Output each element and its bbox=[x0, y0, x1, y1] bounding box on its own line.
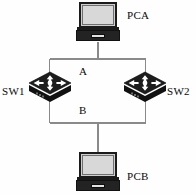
laptop-trackpad bbox=[91, 34, 105, 38]
switch-icon bbox=[27, 70, 73, 102]
laptop-screen bbox=[82, 155, 114, 175]
switch-icon bbox=[122, 70, 168, 102]
device-label-sw2: SW2 bbox=[167, 86, 190, 97]
device-label-pca: PCA bbox=[127, 10, 149, 21]
laptop-screen bbox=[82, 5, 114, 25]
laptop-trackpad bbox=[91, 184, 105, 188]
link-label-a: A bbox=[79, 66, 87, 77]
link-label-b: B bbox=[79, 105, 86, 116]
device-label-pcb: PCB bbox=[127, 171, 149, 182]
device-sw1[interactable] bbox=[27, 70, 73, 102]
network-topology-diagram: PCA bbox=[0, 0, 196, 195]
device-pca[interactable] bbox=[76, 2, 120, 42]
laptop-lid bbox=[79, 2, 117, 28]
laptop-lid bbox=[79, 152, 117, 178]
device-pcb[interactable] bbox=[76, 152, 120, 192]
device-label-sw1: SW1 bbox=[2, 86, 25, 97]
device-sw2[interactable] bbox=[122, 70, 168, 102]
